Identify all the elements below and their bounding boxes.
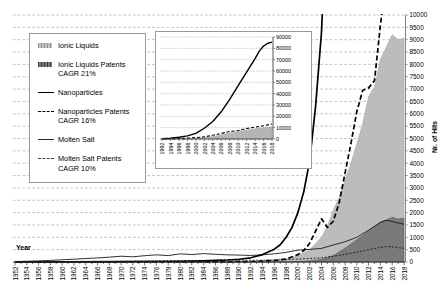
svg-text:2014: 2014 — [252, 143, 258, 155]
svg-text:1000: 1000 — [410, 234, 425, 241]
svg-text:20000: 20000 — [276, 113, 291, 119]
molten-salt-patents-swatch — [38, 158, 54, 159]
svg-text:1992: 1992 — [247, 266, 254, 281]
y-axis-title: Nr. of Hits — [431, 107, 441, 167]
svg-text:1998: 1998 — [185, 143, 191, 155]
svg-text:6000: 6000 — [410, 110, 425, 117]
legend-item-nanoparticles: Nanoparticles — [38, 88, 141, 97]
publications-patents-chart: 0500100015002000250030003500400045005000… — [0, 0, 447, 298]
legend-sublabel: CAGR 10% — [58, 164, 121, 173]
nanoparticles-swatch — [38, 92, 54, 93]
svg-text:2002: 2002 — [202, 143, 208, 155]
svg-text:5500: 5500 — [410, 122, 425, 129]
legend-label: Ionic Liquids Patents — [58, 60, 125, 69]
svg-text:80000: 80000 — [276, 45, 291, 51]
svg-text:2000: 2000 — [410, 209, 425, 216]
svg-text:5000: 5000 — [410, 135, 425, 142]
legend-sublabel: CAGR 21% — [58, 69, 125, 78]
svg-text:1960: 1960 — [59, 266, 66, 281]
svg-text:1958: 1958 — [47, 266, 54, 281]
inset-chart-canvas: 0100002000030000400005000060000700008000… — [156, 32, 311, 168]
svg-text:2500: 2500 — [410, 197, 425, 204]
svg-text:1990: 1990 — [235, 266, 242, 281]
svg-text:2012: 2012 — [365, 266, 372, 281]
svg-text:2006: 2006 — [218, 143, 224, 155]
svg-text:1974: 1974 — [141, 266, 148, 281]
svg-text:2018: 2018 — [269, 143, 275, 155]
svg-text:2016: 2016 — [261, 143, 267, 155]
svg-text:1956: 1956 — [35, 266, 42, 281]
svg-text:1988: 1988 — [224, 266, 231, 281]
svg-text:1966: 1966 — [94, 266, 101, 281]
svg-text:40000: 40000 — [276, 91, 291, 97]
svg-text:1984: 1984 — [200, 266, 207, 281]
legend-label: Molten Salt — [58, 135, 95, 144]
svg-text:2012: 2012 — [244, 143, 250, 155]
svg-text:2016: 2016 — [389, 266, 396, 281]
svg-text:90000: 90000 — [276, 34, 291, 40]
svg-text:1962: 1962 — [70, 266, 77, 281]
svg-text:1972: 1972 — [129, 266, 136, 281]
svg-text:1964: 1964 — [82, 266, 89, 281]
svg-text:3500: 3500 — [410, 172, 425, 179]
svg-text:10000: 10000 — [410, 11, 428, 18]
svg-text:7500: 7500 — [410, 73, 425, 80]
svg-text:1996: 1996 — [176, 143, 182, 155]
svg-text:4500: 4500 — [410, 147, 425, 154]
svg-text:1500: 1500 — [410, 221, 425, 228]
svg-text:2010: 2010 — [235, 143, 241, 155]
svg-text:1952: 1952 — [12, 266, 19, 281]
svg-text:4000: 4000 — [410, 160, 425, 167]
svg-text:1978: 1978 — [165, 266, 172, 281]
svg-text:60000: 60000 — [276, 68, 291, 74]
chart-legend: Ionic Liquids Ionic Liquids PatentsCAGR … — [29, 33, 146, 183]
svg-text:9000: 9000 — [410, 36, 425, 43]
molten-salt-swatch — [38, 139, 54, 140]
svg-text:1992: 1992 — [159, 143, 165, 155]
svg-text:2010: 2010 — [353, 266, 360, 281]
svg-text:10000: 10000 — [276, 125, 291, 131]
nanoparticles-patents-swatch — [38, 111, 54, 112]
svg-text:500: 500 — [410, 246, 421, 253]
svg-text:1994: 1994 — [259, 266, 266, 281]
svg-text:2000: 2000 — [294, 266, 301, 281]
legend-item-ionic-liquids-patents: Ionic Liquids PatentsCAGR 21% — [38, 60, 141, 79]
svg-text:1980: 1980 — [177, 266, 184, 281]
ionic-liquids-swatch — [38, 43, 52, 48]
x-axis-title: Year — [16, 244, 31, 251]
legend-label: Ionic Liquids — [58, 41, 99, 50]
svg-text:6500: 6500 — [410, 98, 425, 105]
svg-text:1968: 1968 — [106, 266, 113, 281]
legend-label: Nanoparticles Patents — [58, 107, 129, 116]
svg-text:1998: 1998 — [283, 266, 290, 281]
svg-text:30000: 30000 — [276, 102, 291, 108]
svg-text:2018: 2018 — [401, 266, 408, 281]
svg-text:9500: 9500 — [410, 24, 425, 31]
svg-text:2004: 2004 — [318, 266, 325, 281]
svg-text:1996: 1996 — [271, 266, 278, 281]
legend-label: Nanoparticles — [58, 88, 103, 97]
inset-chart: 0100002000030000400005000060000700008000… — [155, 31, 312, 169]
legend-item-molten-salt: Molten Salt — [38, 135, 141, 144]
svg-text:3000: 3000 — [410, 184, 425, 191]
svg-text:1994: 1994 — [168, 143, 174, 155]
svg-text:1954: 1954 — [23, 266, 30, 281]
svg-text:0: 0 — [410, 258, 414, 265]
legend-label: Molten Salt Patents — [58, 154, 121, 163]
svg-text:8000: 8000 — [410, 61, 425, 68]
svg-text:2006: 2006 — [330, 266, 337, 281]
svg-text:2008: 2008 — [342, 266, 349, 281]
svg-text:0: 0 — [276, 136, 279, 142]
svg-text:2008: 2008 — [227, 143, 233, 155]
svg-text:1982: 1982 — [188, 266, 195, 281]
svg-text:50000: 50000 — [276, 79, 291, 85]
svg-text:2014: 2014 — [377, 266, 384, 281]
svg-text:70000: 70000 — [276, 57, 291, 63]
svg-text:8500: 8500 — [410, 48, 425, 55]
legend-item-molten-salt-patents: Molten Salt PatentsCAGR 10% — [38, 154, 141, 173]
legend-item-nanoparticles-patents: Nanoparticles PatentsCAGR 16% — [38, 107, 141, 126]
ionic-liquids-patents-swatch — [38, 62, 52, 67]
svg-text:2002: 2002 — [306, 266, 313, 281]
svg-text:2000: 2000 — [193, 143, 199, 155]
svg-text:1986: 1986 — [212, 266, 219, 281]
